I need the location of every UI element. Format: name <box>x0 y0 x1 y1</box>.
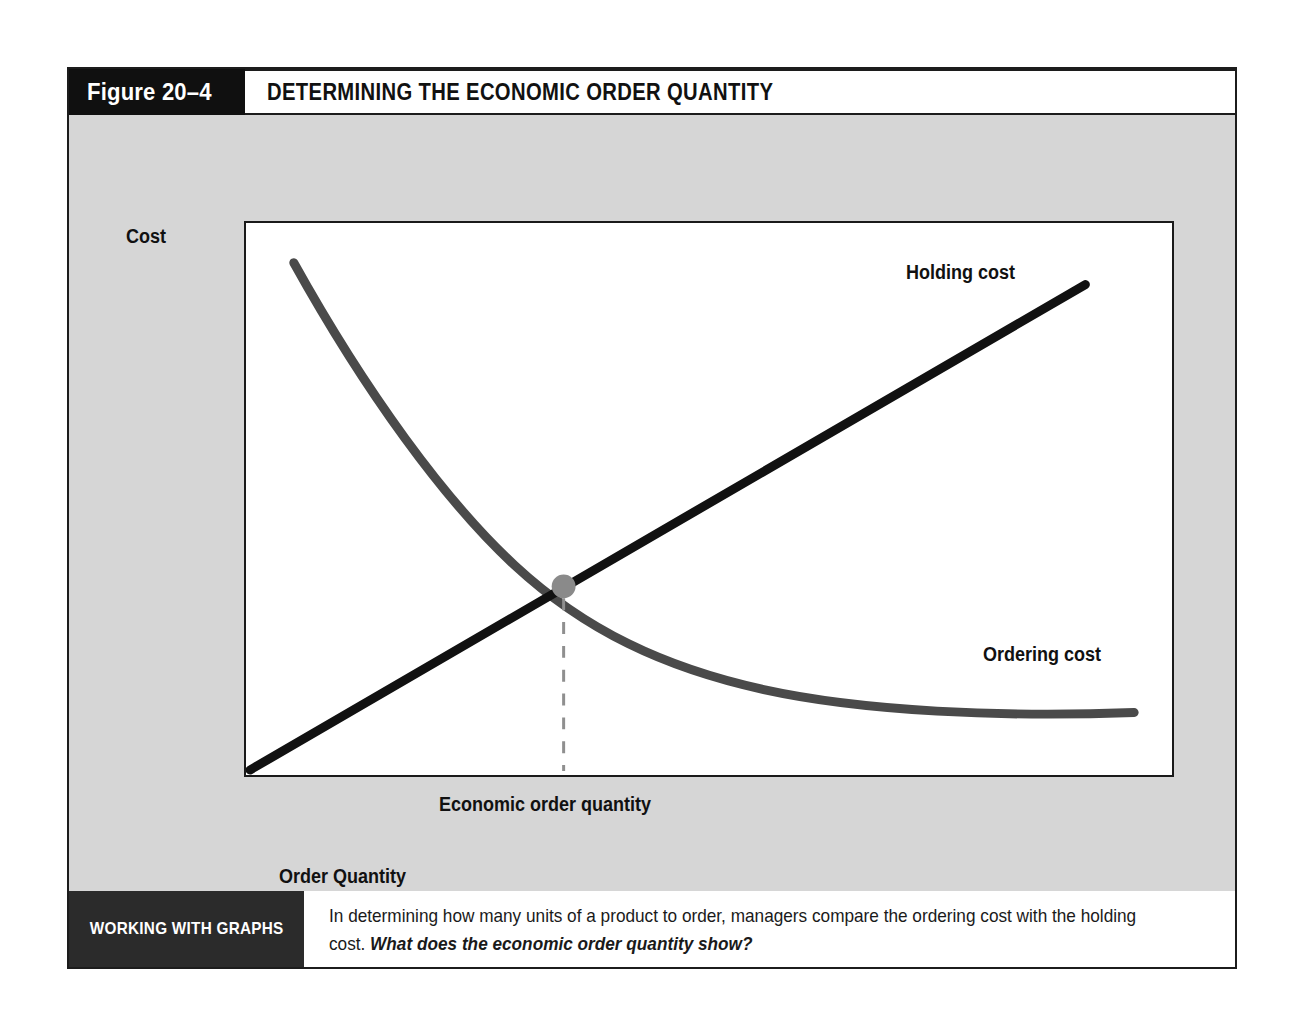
footer-tag-box: WORKING WITH GRAPHS <box>69 891 304 967</box>
chart-svg <box>246 223 1172 775</box>
holding-cost-line <box>250 285 1085 770</box>
figure-number-box: Figure 20–4 <box>69 69 245 115</box>
economic-order-quantity-label: Economic order quantity <box>439 793 651 816</box>
plot-area: Holding cost Ordering cost <box>244 221 1174 777</box>
ordering-cost-label: Ordering cost <box>983 643 1101 666</box>
footer-caption-text: In determining how many units of a produ… <box>329 902 1147 958</box>
holding-cost-label: Holding cost <box>906 261 1015 284</box>
x-axis-label: Order Quantity <box>279 865 406 888</box>
figure-number-label: Figure 20–4 <box>87 78 212 106</box>
figure-body: Cost Holding cost Ordering cost Economic… <box>69 115 1235 867</box>
figure-header: Figure 20–4 DETERMINING THE ECONOMIC ORD… <box>69 69 1235 115</box>
footer-question-text: What does the economic order quantity sh… <box>370 933 752 954</box>
figure-title: DETERMINING THE ECONOMIC ORDER QUANTITY <box>267 79 773 106</box>
eoq-intersection-dot <box>552 574 576 598</box>
footer-caption: In determining how many units of a produ… <box>304 891 1235 967</box>
figure-footer: WORKING WITH GRAPHS In determining how m… <box>69 891 1235 967</box>
y-axis-label: Cost <box>126 225 166 248</box>
footer-tag-label: WORKING WITH GRAPHS <box>90 919 284 939</box>
figure-container: Figure 20–4 DETERMINING THE ECONOMIC ORD… <box>67 67 1237 969</box>
figure-title-box: DETERMINING THE ECONOMIC ORDER QUANTITY <box>245 69 1235 115</box>
